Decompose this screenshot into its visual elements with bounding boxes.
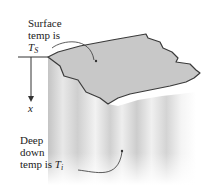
surface-temp-subscript: S [34, 46, 38, 55]
surface-temp-symbol: TS [28, 42, 38, 56]
surface-label-line2: temp is [28, 30, 60, 41]
surface-leader-dot [95, 60, 97, 62]
x-axis-label: x [28, 103, 33, 114]
deep-leader-dot [121, 150, 123, 152]
deep-label-line3: temp is Ti [20, 159, 63, 173]
surface-label-line1: Surface [28, 18, 62, 29]
deep-label-line1: Deep [20, 135, 43, 146]
deep-label-text: temp is [20, 158, 55, 170]
deep-label-line2: down [20, 147, 44, 158]
deep-temp-subscript: i [61, 163, 63, 172]
